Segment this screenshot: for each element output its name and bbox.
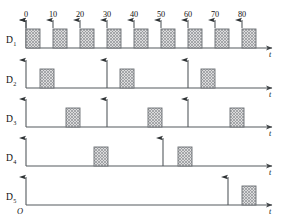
- pulse-d4-0: [94, 147, 108, 166]
- row-label-subscript-d3: 3: [13, 119, 16, 126]
- row-label-d2: D2: [6, 74, 16, 87]
- timing-diagram-figure: D1tD2tD3tD4tD5t 01020304050607080O: [0, 0, 293, 219]
- row-label-subscript-d1: 1: [13, 40, 16, 47]
- pulse-d3-2: [230, 108, 244, 127]
- tick-label-2: 20: [76, 10, 84, 19]
- tick-label-4: 40: [130, 10, 138, 19]
- pulse-d1-7: [215, 29, 229, 48]
- tick-label-0: 0: [24, 10, 28, 19]
- row-label-subscript-d4: 4: [13, 158, 16, 165]
- timing-row-d4: D4t: [6, 138, 272, 177]
- row-label-subscript-d5: 5: [13, 197, 16, 204]
- tick-label-7: 70: [211, 10, 219, 19]
- timing-row-d5: D5t: [6, 177, 272, 216]
- pulse-d3-0: [66, 108, 80, 127]
- pulse-d1-5: [161, 29, 175, 48]
- t-axis-label-d1: t: [269, 50, 272, 59]
- tick-label-8: 80: [238, 10, 246, 19]
- pulse-d2-0: [40, 69, 54, 88]
- t-axis-label-d3: t: [269, 129, 272, 138]
- timing-row-d1: D1t: [6, 20, 272, 59]
- row-label-d4: D4: [6, 152, 16, 165]
- tick-label-1: 10: [49, 10, 57, 19]
- t-axis-label-d5: t: [269, 207, 272, 216]
- pulse-d1-8: [242, 29, 256, 48]
- row-label-d3: D3: [6, 113, 16, 126]
- origin-label: O: [17, 207, 23, 216]
- tick-label-3: 30: [103, 10, 111, 19]
- row-label-d1: D1: [6, 34, 16, 47]
- row-label-subscript-d2: 2: [13, 80, 16, 87]
- pulse-d3-1: [148, 108, 162, 127]
- timing-row-d3: D3t: [6, 99, 272, 138]
- pulse-d1-6: [188, 29, 202, 48]
- tick-label-5: 50: [157, 10, 165, 19]
- pulse-d1-4: [134, 29, 148, 48]
- pulse-d2-2: [201, 69, 215, 88]
- pulse-d5-0: [242, 186, 256, 205]
- pulse-d2-1: [120, 69, 134, 88]
- pulse-d1-3: [107, 29, 121, 48]
- t-axis-label-d4: t: [269, 168, 272, 177]
- tick-label-6: 60: [184, 10, 192, 19]
- pulse-d4-1: [178, 147, 192, 166]
- row-label-d5: D5: [6, 191, 16, 204]
- t-axis-label-d2: t: [269, 90, 272, 99]
- pulse-d1-2: [80, 29, 94, 48]
- pulse-d1-1: [53, 29, 67, 48]
- timing-row-d2: D2t: [6, 60, 272, 99]
- pulse-d1-0: [26, 29, 40, 48]
- timing-diagram-canvas: D1tD2tD3tD4tD5t 01020304050607080O: [0, 0, 293, 219]
